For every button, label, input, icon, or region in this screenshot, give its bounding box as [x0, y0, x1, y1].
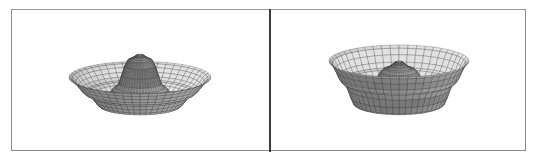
right-surface-plot: [271, 10, 526, 150]
left-surface-plot: [12, 10, 269, 150]
left-surface-mesh: [12, 10, 269, 150]
right-surface-mesh: [271, 10, 526, 150]
